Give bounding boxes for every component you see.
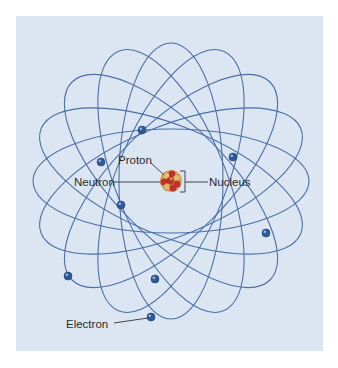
neutron-label: Neutron <box>74 176 115 188</box>
electron-dot <box>64 272 72 280</box>
nucleus <box>160 170 182 192</box>
electron-dot <box>97 158 105 166</box>
electron-highlight <box>99 159 102 162</box>
electron-dot <box>147 313 155 321</box>
electron-highlight <box>264 230 267 233</box>
electron-highlight <box>149 314 152 317</box>
electron-leader-line <box>114 318 148 323</box>
electron-dot <box>262 229 270 237</box>
electron-highlight <box>119 202 122 205</box>
atom-diagram <box>0 0 338 368</box>
electron-highlight <box>153 276 156 279</box>
electron-highlight <box>66 273 69 276</box>
electron-highlight <box>231 154 234 157</box>
electron-dot <box>117 201 125 209</box>
electron-dot <box>138 126 146 134</box>
nucleus-label: Nucleus <box>209 176 251 188</box>
electron-dot <box>229 153 237 161</box>
electron-dot <box>151 275 159 283</box>
proton-leader-line <box>151 163 164 175</box>
electron-label: Electron <box>66 318 108 330</box>
electron-highlight <box>140 127 143 130</box>
proton-label: Proton <box>118 154 152 166</box>
